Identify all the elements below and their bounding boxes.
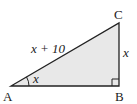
- triangle-diagram: A B C x + 10 x x: [0, 0, 137, 104]
- vertex-a-label: A: [3, 89, 13, 104]
- side-bc-label: x: [122, 45, 129, 60]
- vertex-c-label: C: [114, 7, 123, 22]
- angle-a-label: x: [32, 71, 39, 86]
- hypotenuse-label: x + 10: [30, 41, 66, 56]
- vertex-b-label: B: [115, 89, 124, 104]
